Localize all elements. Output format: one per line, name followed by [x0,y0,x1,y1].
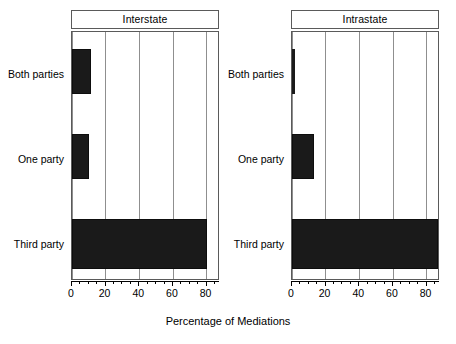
panel-strip-interstate: Interstate [71,10,219,29]
x-tick-minor [197,281,198,284]
x-tick-minor [164,281,165,284]
bar-intrastate-third-party [292,219,438,269]
category-label-both-parties-left: Both parties [8,69,64,80]
trellis-bar-chart-figure: Interstate Intrastate Both [0,0,456,344]
x-tick-minor [189,281,190,284]
x-tick-label: 0 [68,288,74,299]
x-tick-major [71,281,72,286]
x-axis-title: Percentage of Mediations [0,316,456,327]
x-tick-major [291,281,292,286]
plot-area-intrastate [291,31,439,280]
x-tick-minor [299,281,300,284]
x-tick-minor [350,281,351,284]
x-tick-minor [79,281,80,284]
x-tick-minor [155,281,156,284]
category-label-one-party-right: One party [238,154,284,165]
x-tick-label: 20 [319,288,331,299]
category-label-both-parties-right: Both parties [228,69,284,80]
x-tick-label: 20 [99,288,111,299]
x-tick-minor [113,281,114,284]
x-tick-minor [147,281,148,284]
x-tick-major [358,281,359,286]
x-tick-major [392,281,393,286]
x-tick-minor [88,281,89,284]
x-tick-minor [434,281,435,284]
x-tick-label: 60 [166,288,178,299]
category-label-third-party-right: Third party [234,239,284,250]
x-tick-minor [384,281,385,284]
x-tick-major [325,281,326,286]
panel-title-intrastate: Intrastate [343,14,388,25]
x-tick-major [105,281,106,286]
x-tick-minor [96,281,97,284]
x-axis-interstate: 020406080 [71,281,219,282]
bar-interstate-one-party [72,134,89,179]
bar-interstate-both-parties [72,49,91,94]
x-axis-intrastate: 020406080 [291,281,439,282]
x-tick-minor [130,281,131,284]
bar-intrastate-one-party [292,134,314,179]
x-tick-major [426,281,427,286]
x-tick-minor [121,281,122,284]
x-tick-minor [308,281,309,284]
x-tick-minor [375,281,376,284]
x-tick-minor [180,281,181,284]
x-tick-minor [214,281,215,284]
panel-strip-intrastate: Intrastate [291,10,439,29]
panel-title-interstate: Interstate [123,14,168,25]
x-tick-minor [367,281,368,284]
x-tick-minor [417,281,418,284]
plot-area-interstate [71,31,219,280]
bar-interstate-third-party [72,219,207,269]
x-tick-minor [333,281,334,284]
x-tick-label: 80 [200,288,212,299]
bar-intrastate-both-parties [292,49,295,94]
x-tick-label: 0 [288,288,294,299]
x-tick-minor [316,281,317,284]
x-tick-label: 60 [386,288,398,299]
category-label-one-party-left: One party [18,154,64,165]
x-tick-major [172,281,173,286]
x-tick-label: 40 [132,288,144,299]
x-tick-minor [400,281,401,284]
x-tick-major [206,281,207,286]
x-tick-major [138,281,139,286]
x-tick-minor [341,281,342,284]
x-tick-label: 40 [352,288,364,299]
x-tick-label: 80 [420,288,432,299]
category-label-third-party-left: Third party [14,239,64,250]
x-tick-minor [409,281,410,284]
